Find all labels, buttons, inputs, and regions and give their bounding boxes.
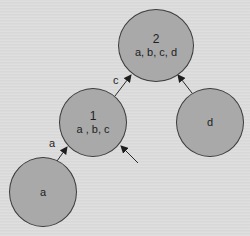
node-a: a — [9, 157, 77, 227]
edge-d-to-2 — [178, 75, 192, 93]
edge-a-to-1 — [57, 147, 67, 161]
edge-label-a: a — [49, 137, 55, 149]
node-1-items: a , b, c — [76, 123, 109, 136]
edge-label-c: c — [113, 74, 119, 86]
node-d: d — [176, 88, 244, 157]
edge-external-to-1 — [121, 146, 138, 163]
node-2-title: 2 — [153, 33, 160, 46]
node-d-title: d — [207, 116, 213, 129]
node-2: 2 a, b, c, d — [118, 9, 194, 82]
node-2-items: a, b, c, d — [135, 46, 177, 59]
node-1-title: 1 — [90, 110, 97, 123]
diagram-canvas: 2 a, b, c, d 1 a , b, c d a c a — [0, 0, 250, 236]
node-a-title: a — [40, 186, 46, 199]
node-1: 1 a , b, c — [59, 88, 127, 157]
